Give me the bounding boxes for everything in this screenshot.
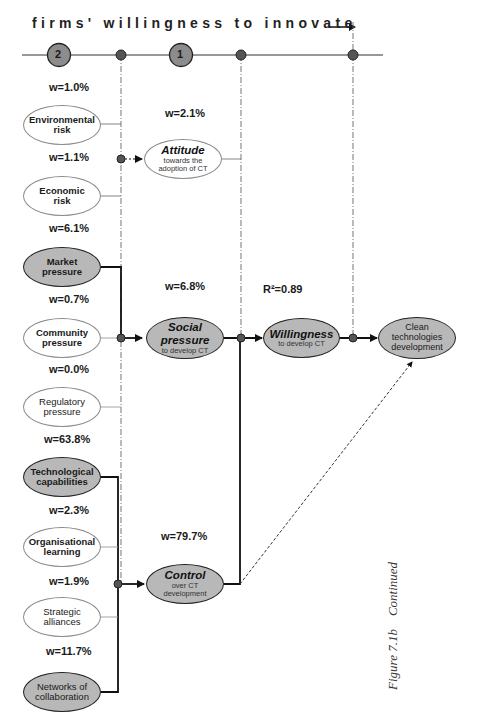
weight-technological: w=63.8% (44, 433, 90, 445)
weight-market: w=6.1% (49, 222, 89, 234)
node-label: collaboration (35, 692, 89, 702)
node-economic-risk: Economic risk (23, 176, 101, 216)
node-title: Social (168, 321, 202, 334)
node-sublabel: development (164, 590, 207, 598)
node-strategic-alliances: Strategic alliances (23, 597, 101, 637)
node-label: pressure (42, 267, 82, 277)
node-sublabel: adoption of CT (158, 165, 207, 173)
node-control: Control over CT development (146, 564, 224, 604)
node-label: development (391, 343, 443, 353)
node-title: pressure (161, 334, 210, 347)
weight-networks: w=11.7% (46, 645, 92, 657)
weight-organisational: w=2.3% (49, 504, 89, 516)
node-technological-capabilities: Technological capabilities (23, 457, 101, 497)
node-social-pressure: Social pressure to develop CT (146, 317, 224, 359)
weight-strategic: w=1.9% (49, 575, 89, 587)
figure-caption: Figure 7.1b Continued (385, 562, 401, 690)
node-networks-of-collaboration: Networks of collaboration (23, 672, 101, 712)
weight-environmental: w=1.0% (49, 81, 89, 93)
node-label: alliances (44, 617, 81, 627)
node-market-pressure: Market pressure (23, 247, 101, 287)
node-label: pressure (44, 407, 81, 417)
node-label: pressure (42, 338, 82, 348)
node-label: capabilities (36, 477, 88, 487)
weight-social: w=6.8% (165, 280, 205, 292)
node-willingness: Willingness to develop CT (263, 318, 340, 358)
node-label: risk (54, 196, 71, 206)
figure-note: Continued (385, 562, 400, 616)
weight-attitude: w=2.1% (165, 107, 205, 119)
node-label: risk (54, 125, 71, 135)
node-label: learning (44, 547, 81, 557)
node-community-pressure: Community pressure (23, 318, 101, 358)
node-organisational-learning: Organisational learning (23, 527, 101, 567)
weight-regulatory: w=0.0% (49, 363, 89, 375)
diagram-title: firms' willingness to innovate (32, 15, 356, 31)
stage-1-marker: 1 (177, 48, 183, 60)
stage-2-marker: 2 (55, 48, 61, 60)
node-attitude: Attitude towards the adoption of CT (144, 139, 222, 179)
node-regulatory-pressure: Regulatory pressure (23, 387, 101, 427)
weight-economic: w=1.1% (49, 151, 89, 163)
node-sublabel: to develop CT (162, 347, 209, 355)
figure-number: Figure 7.1b (385, 629, 400, 690)
r-squared: R²=0.89 (263, 283, 302, 295)
weight-control: w=79.7% (161, 530, 207, 542)
node-clean-technologies-development: Clean technologies development (378, 317, 456, 359)
weight-community: w=0.7% (49, 293, 89, 305)
node-sublabel: to develop CT (278, 340, 325, 348)
node-environmental-risk: Environmental risk (23, 105, 101, 145)
